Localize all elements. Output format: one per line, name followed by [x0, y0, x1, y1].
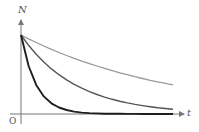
y-axis-label: N	[18, 5, 27, 15]
decay-chart	[0, 0, 199, 132]
series-line-2	[21, 35, 173, 114]
series-line-0	[21, 35, 173, 85]
x-axis-label: t	[187, 108, 191, 118]
origin-label: O	[9, 117, 16, 126]
series-layer	[21, 35, 173, 114]
